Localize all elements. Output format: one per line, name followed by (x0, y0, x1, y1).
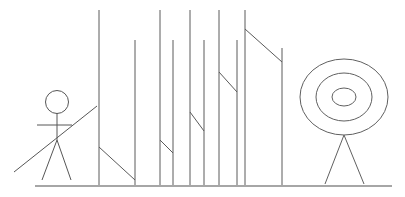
archer-figure (14, 91, 97, 181)
inner-ring (332, 88, 356, 106)
archer-head-icon (46, 91, 69, 114)
middle-ring (316, 73, 372, 121)
letter-3-diagonal (219, 72, 237, 92)
letter-1-diagonal (160, 140, 173, 153)
outer-ring (300, 59, 388, 135)
scene-svg (0, 0, 405, 197)
target-stand-leg-left (325, 135, 344, 184)
archer-bow (14, 106, 97, 172)
archer-leg-left (42, 140, 57, 180)
archer-leg-right (57, 140, 71, 180)
letter-0-diagonal (99, 147, 135, 180)
letter-4-diagonal (245, 29, 282, 62)
letter-row (99, 10, 282, 185)
target-stand-leg-right (344, 135, 364, 184)
letter-2-diagonal (190, 112, 204, 131)
bullseye-target (300, 59, 388, 184)
line-drawing-scene (0, 0, 405, 197)
target-rings (300, 59, 388, 135)
